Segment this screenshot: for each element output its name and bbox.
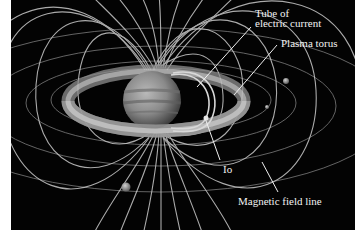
plasma-torus-label: Plasma torus <box>281 38 338 48</box>
moon <box>122 183 131 192</box>
moon <box>265 105 269 109</box>
magnetosphere-diagram: Tube of electric current Plasma torus Io… <box>11 0 355 230</box>
io-label: Io <box>223 164 232 174</box>
orbit-lines <box>11 28 355 192</box>
tube-label-line2: electric current <box>255 18 321 28</box>
tube-of-current-label: Tube of electric current <box>255 8 321 28</box>
magnetic-field-line-label: Magnetic field line <box>238 196 322 206</box>
jupiter-planet <box>123 71 181 129</box>
moon <box>283 78 289 84</box>
